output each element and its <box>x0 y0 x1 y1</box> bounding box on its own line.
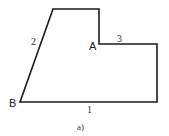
point-label-b: B <box>9 97 16 109</box>
edge-label-1: 1 <box>87 104 92 115</box>
point-label-a: A <box>89 40 97 52</box>
l-shaped-polygon <box>20 9 157 102</box>
edge-label-2: 2 <box>31 36 36 47</box>
polygon-diagram: A B 1 2 3 a) <box>0 0 169 136</box>
figure-caption: a) <box>77 122 84 132</box>
edge-label-3: 3 <box>117 33 122 44</box>
